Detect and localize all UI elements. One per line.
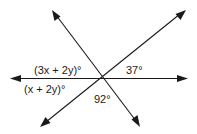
arrow-lower-left-icon — [40, 117, 51, 127]
horizontal-line — [10, 75, 188, 82]
arrow-upper-right-icon — [176, 10, 187, 20]
angle-label-upper-right: 37° — [126, 64, 143, 76]
arrow-left-icon — [10, 75, 21, 82]
angle-label-bottom: 92° — [94, 93, 111, 105]
angle-diagram: (3x + 2y)° (x + 2y)° 37° 92° — [0, 0, 197, 134]
angle-label-upper-left: (3x + 2y)° — [34, 64, 82, 76]
arrow-right-icon — [177, 75, 188, 82]
angle-label-lower-left: (x + 2y)° — [24, 83, 65, 95]
